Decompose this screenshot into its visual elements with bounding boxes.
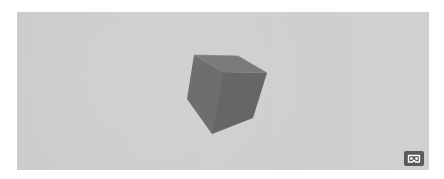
vr-headset-icon [407,154,421,164]
3d-viewport[interactable] [17,12,429,170]
vr-button[interactable] [404,151,424,166]
cube-scene [17,12,429,170]
